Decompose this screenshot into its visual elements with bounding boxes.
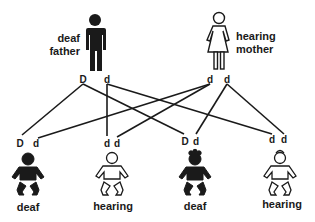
father-allele-1: D [79, 74, 86, 85]
baby-icon-filled [12, 153, 44, 195]
inheritance-lines [22, 84, 284, 138]
child-1-label: deaf [17, 201, 40, 213]
mother: hearing mother d d [207, 13, 276, 86]
child-3-allele-2: d [193, 136, 199, 147]
child-3-label: deaf [184, 200, 207, 212]
child-1-allele-2: d [33, 138, 39, 149]
child-4-label: hearing [262, 198, 302, 210]
child-1-allele-1: D [16, 138, 23, 149]
child-3-allele-1: D [181, 136, 188, 147]
child-2: d d hearing [93, 138, 133, 212]
father: deaf father D d [49, 14, 110, 85]
man-icon-filled [86, 14, 106, 71]
child-2-allele-2: d [114, 138, 120, 149]
woman-icon-outline [207, 13, 229, 70]
mother-allele-2: d [224, 74, 230, 85]
child-3: D d deaf [179, 136, 211, 212]
mother-allele-1: d [207, 74, 213, 85]
line-mother-d1-child1 [38, 84, 210, 138]
father-allele-2: d [104, 74, 110, 85]
child-4-allele-2: d [281, 134, 287, 145]
inheritance-diagram: deaf father D d hearing mother d d D d d… [0, 0, 315, 222]
child-4: d d hearing [262, 134, 302, 210]
child-2-label: hearing [93, 200, 133, 212]
baby-icon-outline [96, 153, 128, 196]
child-4-allele-1: d [269, 134, 275, 145]
mother-label-line1: hearing [236, 30, 276, 42]
line-mother-d2-child4 [227, 84, 284, 134]
father-label-line2: father [49, 45, 80, 57]
mother-label-line2: mother [236, 43, 274, 55]
baby-icon-filled-curly [179, 149, 211, 195]
line-mother-d2-child3 [196, 84, 227, 134]
child-1: D d deaf [12, 138, 44, 213]
father-label-line1: deaf [57, 32, 80, 44]
child-2-allele-1: d [104, 138, 110, 149]
baby-icon-outline-curly [264, 151, 296, 196]
